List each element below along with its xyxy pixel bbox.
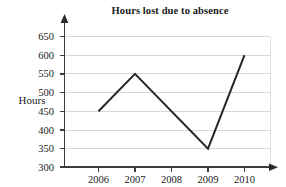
ytick-label-550: 550 bbox=[26, 68, 54, 79]
xtick-label-2007: 2007 bbox=[115, 174, 155, 185]
ytick-label-650: 650 bbox=[26, 31, 54, 42]
ytick-label-450: 450 bbox=[26, 106, 54, 117]
xtick-label-2006: 2006 bbox=[79, 174, 119, 185]
data-line-hours-lost bbox=[99, 55, 245, 149]
ytick-label-600: 600 bbox=[26, 50, 54, 61]
x-axis-arrowhead bbox=[269, 163, 278, 171]
ytick-label-500: 500 bbox=[26, 87, 54, 98]
xtick-label-2010: 2010 bbox=[225, 174, 265, 185]
ytick-label-300: 300 bbox=[26, 162, 54, 173]
gridlines bbox=[64, 37, 270, 149]
xtick-label-2008: 2008 bbox=[152, 174, 192, 185]
line-chart: Hours lost due to absence Hours bbox=[0, 0, 286, 187]
ytick-label-400: 400 bbox=[26, 125, 54, 136]
y-axis-arrowhead bbox=[61, 14, 69, 23]
ytick-label-350: 350 bbox=[26, 143, 54, 154]
xtick-label-2009: 2009 bbox=[188, 174, 228, 185]
